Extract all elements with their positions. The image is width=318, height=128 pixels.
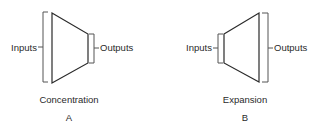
- panel-concentration: Inputs Outputs Concentration A: [11, 12, 133, 123]
- inputs-bracket: [43, 12, 48, 82]
- concentration-trapezoid: [52, 13, 88, 83]
- diagram: Inputs Outputs Concentration A Inputs Ou…: [0, 0, 318, 128]
- inputs-bracket: [218, 34, 223, 63]
- caption-expansion: Expansion: [223, 94, 267, 105]
- outputs-bracket: [89, 34, 94, 63]
- outputs-label: Outputs: [100, 42, 134, 53]
- panel-letter-b: B: [242, 112, 248, 123]
- inputs-label: Inputs: [11, 42, 37, 53]
- panel-expansion: Inputs Outputs Expansion B: [186, 13, 307, 123]
- caption-concentration: Concentration: [39, 94, 98, 105]
- outputs-label: Outputs: [274, 42, 308, 53]
- expansion-trapezoid: [224, 13, 259, 82]
- outputs-bracket: [262, 13, 268, 82]
- inputs-label: Inputs: [186, 42, 212, 53]
- panel-letter-a: A: [66, 112, 73, 123]
